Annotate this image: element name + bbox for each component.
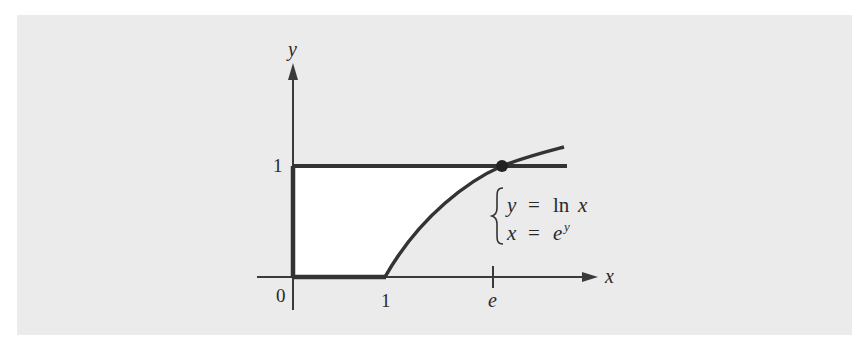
intersection-point (496, 160, 508, 172)
annotation-line-1: y = ln x (505, 193, 588, 217)
svg-text:=: = (528, 193, 540, 217)
x-axis-arrow-icon (582, 272, 598, 282)
y-axis-label: y (286, 38, 297, 61)
origin-label: 0 (276, 285, 286, 306)
svg-text:=: = (528, 221, 540, 245)
x-axis-label: x (604, 265, 614, 287)
svg-text:e: e (553, 221, 562, 245)
svg-text:x: x (506, 221, 517, 245)
x-tick-label-e: e (488, 289, 497, 311)
y-tick-label-1: 1 (273, 155, 283, 176)
svg-text:y: y (562, 219, 570, 234)
brace-icon (492, 188, 503, 244)
ln-arg: x (577, 193, 588, 217)
svg-text:y: y (505, 193, 517, 217)
ln-graph: y x 0 1 e 1 y = ln x x = e y (0, 0, 865, 348)
y-axis-arrow-icon (288, 63, 298, 80)
ln-text: ln (553, 193, 570, 217)
annotation-line-2: x = e y (506, 219, 570, 245)
x-tick-label-1: 1 (381, 290, 391, 311)
